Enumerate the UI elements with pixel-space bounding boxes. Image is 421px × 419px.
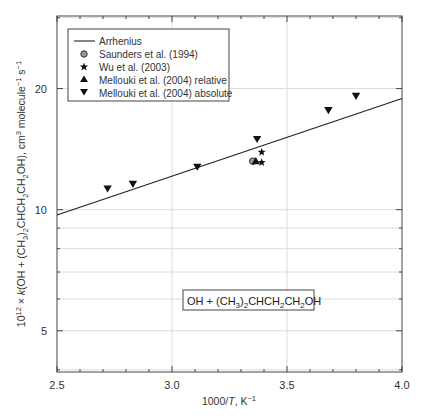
legend-label: Wu et al. (2003) — [99, 62, 170, 73]
legend-circle-icon — [81, 51, 87, 57]
star-marker-icon — [258, 148, 266, 156]
annotation-box: OH + (CH3)2CHCH2CH2OH — [183, 290, 321, 310]
data-series — [57, 93, 402, 215]
legend-label: Mellouki et al. (2004) relative — [99, 75, 227, 86]
legend: Arrhenius Saunders et al. (1994) Wu et a… — [68, 29, 233, 101]
triangle-down-marker-icon — [324, 107, 332, 114]
y-tick-label: 20 — [35, 83, 47, 95]
legend-label: Saunders et al. (1994) — [99, 49, 198, 60]
x-tick-label: 2.5 — [49, 379, 64, 391]
legend-label: Arrhenius — [99, 36, 142, 47]
y-axis-label: 1012 × k(OH + (CH3)2CHCH2CH2OH), cm3 mol… — [14, 61, 30, 327]
star-marker-icon — [258, 158, 266, 166]
triangle-down-marker-icon — [352, 93, 360, 100]
x-axis-label: 1000/T, K−1 — [202, 394, 256, 407]
x-tick-label: 3.0 — [164, 379, 179, 391]
legend-label: Mellouki et al. (2004) absolute — [99, 88, 233, 99]
triangle-down-marker-icon — [103, 185, 111, 192]
arrhenius-line — [57, 98, 402, 215]
triangle-down-marker-icon — [129, 181, 137, 188]
x-tick-label: 3.5 — [279, 379, 294, 391]
x-tick-label: 4.0 — [394, 379, 409, 391]
y-tick-label: 10 — [35, 204, 47, 216]
arrhenius-chart: 2.53.03.54.051020 OH + (CH3)2CHCH2CH2OH … — [0, 0, 421, 419]
triangle-down-marker-icon — [253, 136, 261, 143]
y-tick-label: 5 — [41, 325, 47, 337]
